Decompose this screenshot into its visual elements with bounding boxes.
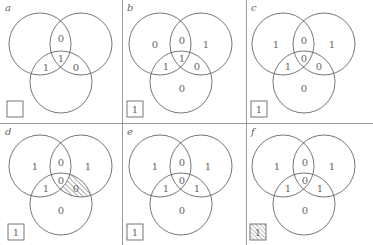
region-ac: 1 [43,62,49,73]
venn-diagram: 1 1 0 0 1 1 0 1 [248,124,371,245]
region-b: 1 [205,161,211,172]
circle-b [50,13,112,75]
region-c: 0 [302,205,308,216]
region-b: 1 [85,161,91,172]
region-bc: 0 [73,62,79,73]
result-box-value: 1 [13,227,19,238]
panel-label: d [5,126,11,137]
venn-diagram: 1 1 0 0 1 1 0 1 [124,124,247,245]
region-ac: 1 [163,183,169,194]
panel-a: 0 1 0 1 a [0,0,123,122]
region-abc: 0 [302,175,308,186]
panel-e: 1 1 0 0 1 1 0 1 e [124,124,247,245]
region-bc: 0 [316,61,322,72]
region-bc: 0 [194,61,200,72]
region-b: 1 [329,161,335,172]
region-bc: 1 [317,183,323,194]
region-abc: 1 [179,53,185,64]
region-ab: 0 [58,157,64,168]
region-ab: 0 [179,35,185,46]
region-ac: 1 [43,183,49,194]
venn-diagram: 0 1 0 0 1 0 1 1 [124,0,247,122]
result-box-value: 1 [256,104,262,115]
region-abc: 0 [58,175,64,186]
region-c: 0 [58,205,64,216]
region-b: 1 [329,39,335,50]
region-c: 0 [179,205,185,216]
result-box-value: 1 [132,227,138,238]
panel-label: b [127,2,133,13]
panel-d: 1 1 0 0 1 0 0 1 d [0,124,123,245]
region-ac: 1 [163,61,169,72]
venn-diagram: 1 1 0 0 1 0 0 1 [0,124,123,245]
panel-c: 1 1 0 0 1 0 0 1 c [248,0,371,122]
region-a: 1 [152,161,158,172]
region-ac: 1 [285,183,291,194]
region-a: 1 [273,39,279,50]
result-box [7,101,23,117]
region-abc: 1 [58,53,64,64]
region-ac: 1 [285,61,291,72]
region-a: 1 [32,161,38,172]
region-c: 0 [301,83,307,94]
panel-label: f [251,126,255,137]
region-a: 0 [152,39,158,50]
panel-f: 1 1 0 0 1 1 0 1 f [248,124,371,245]
result-box-value: 1 [255,227,261,238]
result-box-value: 1 [132,104,138,115]
region-ab: 0 [301,35,307,46]
region-ab: 0 [179,157,185,168]
circle-a [9,13,71,75]
region-c: 0 [179,83,185,94]
region-ab: 0 [302,157,308,168]
region-a: 1 [274,161,280,172]
region-b: 1 [203,39,209,50]
region-abc: 0 [301,53,307,64]
region-bc: 1 [194,183,200,194]
region-abc: 0 [179,175,185,186]
venn-diagram: 0 1 0 1 [0,0,123,122]
region-ab: 0 [58,33,64,44]
panel-label: e [127,126,133,137]
panel-label: a [5,2,11,13]
region-bc: 0 [73,183,79,194]
venn-diagram: 1 1 0 0 1 0 0 1 [248,0,371,122]
venn-diagram-figure: 0 1 0 1 a 0 1 0 0 1 0 1 1 b [0,0,373,245]
panel-b: 0 1 0 0 1 0 1 1 b [124,0,247,122]
panel-label: c [251,2,257,13]
